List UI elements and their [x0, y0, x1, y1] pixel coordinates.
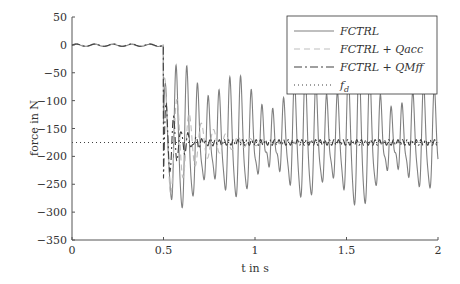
- y-tick-label: −150: [37, 123, 67, 136]
- y-tick-label: −250: [37, 178, 67, 191]
- x-tick-label: 0.5: [155, 244, 173, 257]
- y-ticks: 500−50−100−150−200−250−300−350: [37, 11, 75, 247]
- y-tick-label: −200: [37, 150, 67, 163]
- y-tick-label: −100: [37, 95, 67, 108]
- x-tick-label: 1: [252, 244, 259, 257]
- x-axis-label: t in s: [241, 262, 269, 275]
- x-tick-label: 2: [435, 244, 442, 257]
- y-axis-label: force in N: [28, 100, 41, 156]
- force-chart: 500−50−100−150−200−250−300−350 00.511.52…: [0, 0, 460, 284]
- legend-label-fctrl: FCTRL: [339, 25, 379, 38]
- legend-label-fctrl-qmff: FCTRL + QMff: [339, 61, 425, 74]
- legend: FCTRL FCTRL + Qacc FCTRL + QMff fd: [287, 16, 437, 94]
- y-tick-label: 50: [53, 11, 67, 24]
- y-tick-label: −350: [37, 234, 67, 247]
- y-tick-label: 0: [60, 39, 67, 52]
- y-tick-label: −300: [37, 206, 67, 219]
- x-tick-label: 1.5: [338, 244, 356, 257]
- y-tick-label: −50: [44, 67, 67, 80]
- legend-label-fctrl-qacc: FCTRL + Qacc: [339, 43, 423, 56]
- x-tick-label: 0: [69, 244, 76, 257]
